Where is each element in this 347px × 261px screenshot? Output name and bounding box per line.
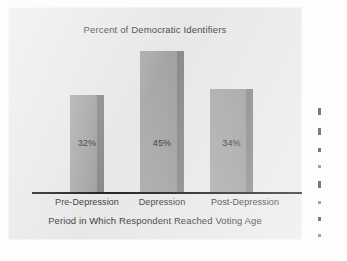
text-line-stub	[318, 128, 321, 135]
text-line-stub	[318, 234, 321, 237]
bar-value-label-2: 34%	[210, 138, 253, 148]
scanned-page: Percent of Democratic Identifiers 32% 45…	[0, 0, 347, 261]
bar-depression: 45%	[140, 51, 184, 192]
bar-value-label-1: 45%	[140, 138, 184, 148]
text-line-stub	[318, 217, 321, 221]
bar-side-face	[177, 51, 184, 192]
bar-pre-depression: 32%	[70, 95, 104, 192]
figure-panel: Percent of Democratic Identifiers 32% 45…	[8, 7, 302, 240]
text-line-stub	[318, 181, 321, 188]
x-axis-line	[32, 192, 302, 194]
text-line-stub	[318, 165, 321, 168]
x-axis-title: Period in Which Respondent Reached Votin…	[8, 215, 302, 226]
category-label-post-depression: Post-Depression	[190, 197, 300, 207]
text-line-stub	[318, 148, 321, 152]
text-line-stub	[318, 201, 321, 204]
category-label-depression: Depression	[126, 197, 198, 207]
adjacent-text-column-sliver	[318, 108, 342, 248]
bar-value-label-0: 32%	[70, 138, 104, 148]
text-line-stub	[318, 108, 321, 115]
bar-post-depression: 34%	[210, 89, 253, 192]
plot-area: 32% 45% 34% Pre-Depression Depression	[8, 7, 302, 240]
